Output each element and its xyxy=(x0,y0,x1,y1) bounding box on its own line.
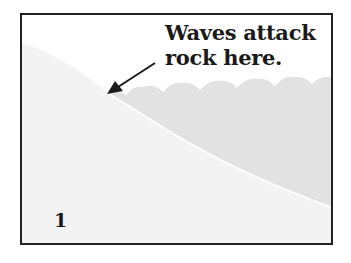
caption-line-1: Waves attack xyxy=(165,20,315,45)
caption: Waves attack rock here. xyxy=(165,20,315,70)
diagram-panel: Waves attack rock here. 1 xyxy=(20,13,333,245)
panel-number: 1 xyxy=(54,209,67,231)
caption-line-2: rock here. xyxy=(165,45,315,70)
